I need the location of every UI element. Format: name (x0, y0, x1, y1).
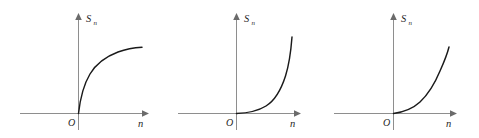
curve-convex-increasing-moderate (394, 47, 450, 114)
curve-concave-increasing (79, 47, 143, 113)
graph-panel-3: S n n O (316, 0, 475, 138)
x-axis-arrow-icon (142, 110, 149, 117)
graph-panel-2: S n n O (158, 0, 317, 138)
x-axis-arrow-icon (450, 110, 457, 117)
y-axis-label-subscript: n (94, 19, 98, 27)
graph-panel-1: S n n O (0, 0, 159, 138)
origin-label: O (68, 117, 75, 128)
y-axis-label: S (86, 13, 92, 24)
origin-label: O (383, 117, 390, 128)
y-axis-label-subscript: n (252, 19, 256, 27)
y-axis-arrow-icon (390, 13, 397, 20)
y-axis-arrow-icon (233, 13, 240, 20)
curve-convex-increasing-steep (237, 37, 293, 114)
y-axis-label-subscript: n (409, 19, 413, 27)
x-axis-label: n (446, 118, 451, 129)
three-graphs-figure: S n n O S n n O S n (0, 0, 479, 138)
x-axis-label: n (138, 118, 143, 129)
y-axis-label: S (401, 13, 407, 24)
x-axis-label: n (290, 118, 295, 129)
y-axis-label: S (244, 13, 250, 24)
origin-label: O (226, 117, 233, 128)
y-axis-arrow-icon (75, 13, 82, 20)
x-axis-arrow-icon (294, 110, 301, 117)
